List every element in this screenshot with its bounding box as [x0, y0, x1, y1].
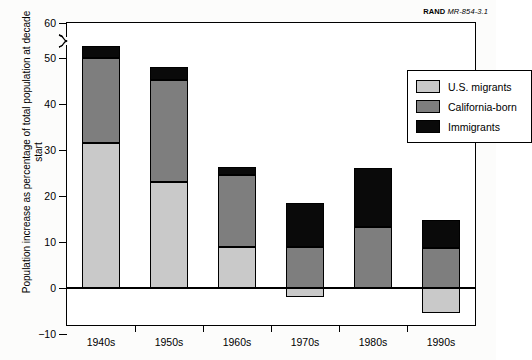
y-axis-tick	[59, 58, 67, 59]
zero-baseline	[67, 287, 475, 289]
y-axis-tick-label: 0	[50, 282, 56, 294]
legend-item-us-migrants: U.S. migrants	[416, 78, 523, 95]
x-axis-tick	[135, 325, 136, 332]
y-axis-tick-label: 10	[44, 236, 56, 248]
bar-group[interactable]	[422, 23, 460, 325]
bar-segment-us-migrants[interactable]	[286, 288, 324, 297]
y-axis-tick	[59, 242, 67, 243]
credit-org: RAND	[423, 7, 445, 16]
legend-swatch-icon	[416, 120, 440, 133]
x-axis-category-label: 1950s	[155, 336, 184, 348]
y-axis-tick	[59, 288, 67, 289]
bar-segment-california-born[interactable]	[286, 247, 324, 288]
legend-label: U.S. migrants	[448, 81, 512, 93]
x-axis-tick	[271, 325, 272, 332]
y-axis-tick-label: 20	[44, 190, 56, 202]
x-axis-category-label: 1940s	[87, 336, 116, 348]
source-credit: RAND MR-854-3.1	[423, 7, 488, 16]
legend-label: Immigrants	[448, 121, 500, 133]
bar-segment-california-born[interactable]	[218, 175, 256, 246]
bar-segment-us-migrants[interactable]	[218, 247, 256, 288]
bar-segment-immigrants[interactable]	[150, 67, 188, 80]
plot-area: −100102030405060 1940s1950s1960s1970s198…	[66, 22, 476, 326]
x-axis-tick	[203, 325, 204, 332]
y-axis-tick	[59, 23, 67, 24]
x-axis-tick	[339, 325, 340, 332]
y-axis-tick-label: 50	[44, 52, 56, 64]
legend: U.S. migrants California-born Immigrants	[407, 70, 532, 143]
bar-segment-us-migrants[interactable]	[82, 143, 120, 288]
x-axis-category-label: 1960s	[223, 336, 252, 348]
legend-swatch-icon	[416, 100, 440, 113]
y-axis-tick-label: −10	[38, 328, 56, 340]
bar-segment-immigrants[interactable]	[422, 220, 460, 248]
y-axis-tick-label: 40	[44, 98, 56, 110]
x-axis-category-label: 1980s	[359, 336, 388, 348]
y-axis-tick	[59, 334, 67, 335]
bar-segment-immigrants[interactable]	[354, 168, 392, 226]
bar-segment-immigrants[interactable]	[286, 203, 324, 247]
bar-segment-california-born[interactable]	[150, 80, 188, 183]
legend-item-immigrants: Immigrants	[416, 118, 523, 135]
bar-segment-immigrants[interactable]	[82, 46, 120, 58]
bar-segment-california-born[interactable]	[354, 227, 392, 288]
bar-segment-immigrants[interactable]	[218, 167, 256, 175]
y-axis-tick-label: 30	[44, 144, 56, 156]
bar-group[interactable]	[218, 23, 256, 325]
bar-segment-us-migrants[interactable]	[150, 182, 188, 288]
bar-group[interactable]	[150, 23, 188, 325]
legend-label: California-born	[448, 101, 517, 113]
bar-group[interactable]	[354, 23, 392, 325]
bar-segment-us-migrants[interactable]	[422, 288, 460, 313]
legend-swatch-icon	[416, 80, 440, 93]
bar-group[interactable]	[286, 23, 324, 325]
y-axis-tick-label: 60	[44, 17, 56, 29]
bar-group[interactable]	[82, 23, 120, 325]
x-axis-category-label: 1990s	[427, 336, 456, 348]
y-axis-tick	[59, 150, 67, 151]
bar-segment-california-born[interactable]	[82, 58, 120, 143]
legend-item-california-born: California-born	[416, 98, 523, 115]
x-axis-category-label: 1970s	[291, 336, 320, 348]
credit-figure-id: MR-854-3.1	[447, 7, 488, 16]
y-axis-tick	[59, 104, 67, 105]
axis-break-icon	[58, 32, 74, 54]
y-axis-tick	[59, 196, 67, 197]
x-axis-tick	[407, 325, 408, 332]
bar-segment-california-born[interactable]	[422, 248, 460, 288]
